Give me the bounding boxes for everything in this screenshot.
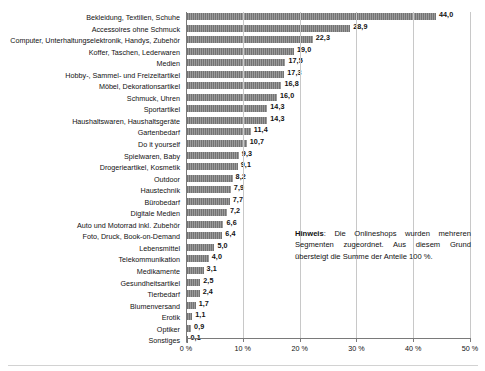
bar — [186, 221, 223, 228]
bar-row: 16,8 — [186, 81, 470, 93]
bar-value-label: 14,3 — [270, 114, 284, 123]
bar-value-label: 14,3 — [270, 102, 284, 111]
bar — [186, 186, 231, 193]
bar-row: 11,4 — [186, 127, 470, 139]
bar — [186, 128, 251, 135]
bottom-divider — [8, 365, 478, 366]
x-tick-50 — [470, 338, 471, 342]
category-label: Computer, Unterhaltungselektronik, Handy… — [0, 35, 183, 47]
bar — [186, 244, 214, 251]
bar-row: 3,1 — [186, 266, 470, 278]
bar — [186, 140, 247, 147]
category-label: Haustechnik — [0, 185, 183, 197]
category-label: Digitale Medien — [0, 208, 183, 220]
bar — [186, 279, 200, 286]
bar — [186, 36, 313, 43]
x-tick-label-10: 10 % — [235, 344, 251, 353]
category-label: Lebensmittel — [0, 243, 183, 255]
bar-value-label: 2,4 — [203, 287, 213, 296]
x-tick-30 — [356, 338, 357, 342]
bar-row: 14,3 — [186, 116, 470, 128]
category-label: Accessoires ohne Schmuck — [0, 24, 183, 36]
x-tick-10 — [243, 338, 244, 342]
bar-value-label: 44,0 — [439, 10, 453, 19]
gridline-0 — [186, 12, 187, 338]
gridline-40 — [413, 12, 414, 338]
bar-row: 14,3 — [186, 104, 470, 116]
bar — [186, 302, 196, 309]
bar-value-label: 6,4 — [225, 229, 235, 238]
bar-row: 2,4 — [186, 289, 470, 301]
category-label: Erotik — [0, 312, 183, 324]
bar-value-label: 5,0 — [217, 241, 227, 250]
bar — [186, 117, 267, 124]
category-label: Foto, Druck, Book-on-Demand — [0, 231, 183, 243]
category-label: Medikamente — [0, 266, 183, 278]
bar-value-label: 11,4 — [254, 125, 268, 134]
x-tick-20 — [300, 338, 301, 342]
bar-row: 0,9 — [186, 324, 470, 336]
plot-area: 44,028,922,319,017,517,316,816,014,314,3… — [186, 12, 470, 338]
category-label: Haushaltswaren, Haushaltsgeräte — [0, 116, 183, 128]
bar — [186, 48, 294, 55]
category-label: Bürobedarf — [0, 197, 183, 209]
gridline-50 — [470, 12, 471, 338]
x-tick-label-40: 40 % — [405, 344, 421, 353]
bar — [186, 152, 239, 159]
bar-value-label: 6,6 — [226, 218, 236, 227]
hinweis-note-separator: : — [324, 229, 326, 238]
category-label: Möbel, Dekorationsartikel — [0, 81, 183, 93]
bar — [186, 175, 233, 182]
bar-value-label: 2,5 — [203, 276, 213, 285]
bar-value-label: 0,9 — [194, 322, 204, 331]
bar-value-label: 7,2 — [230, 206, 240, 215]
category-label: Hobby-, Sammel- und Freizeitartikel — [0, 70, 183, 82]
bar-row: 8,2 — [186, 174, 470, 186]
bar-row: 9,1 — [186, 162, 470, 174]
category-label: Outdoor — [0, 174, 183, 186]
bar-value-label: 17,5 — [288, 56, 302, 65]
bar — [186, 25, 350, 32]
bar-value-label: 1,1 — [195, 310, 205, 319]
bar — [186, 198, 230, 205]
category-label: Bekleidung, Textilien, Schuhe — [0, 12, 183, 24]
hinweis-note: Hinweis: Die Onlineshops wurden mehreren… — [295, 228, 471, 262]
category-label: Sonstiges — [0, 335, 183, 347]
bar-row: 16,0 — [186, 93, 470, 105]
bar — [186, 59, 285, 66]
bar-value-label: 16,0 — [280, 91, 294, 100]
bar-row: 19,0 — [186, 47, 470, 59]
category-label: Sportartikel — [0, 104, 183, 116]
category-label: Drogerieartikel, Kosmetik — [0, 162, 183, 174]
bar-row: 17,5 — [186, 58, 470, 70]
bar — [186, 105, 267, 112]
x-axis-line — [186, 338, 470, 339]
bar-value-label: 10,7 — [250, 137, 264, 146]
category-label: Gesundheitsartikel — [0, 278, 183, 290]
bar — [186, 255, 209, 262]
bar — [186, 13, 436, 20]
category-axis-labels: Bekleidung, Textilien, SchuheAccessoires… — [0, 12, 183, 338]
bar-row: 1,1 — [186, 312, 470, 324]
category-label: Medien — [0, 58, 183, 70]
category-label: Blumenversand — [0, 301, 183, 313]
bar-value-label: 22,3 — [316, 33, 330, 42]
bar — [186, 71, 284, 78]
x-tick-label-0: 0 % — [180, 344, 192, 353]
bar-row: 1,7 — [186, 301, 470, 313]
bar-row: 10,7 — [186, 139, 470, 151]
bar — [186, 82, 281, 89]
bar-rows: 44,028,922,319,017,517,316,816,014,314,3… — [186, 12, 470, 347]
category-label: Spielwaren, Baby — [0, 151, 183, 163]
hinweis-note-label: Hinweis — [295, 229, 324, 238]
bar-row: 9,3 — [186, 151, 470, 163]
bar-row: 44,0 — [186, 12, 470, 24]
gridline-10 — [243, 12, 244, 338]
category-label: Telekommunikation — [0, 254, 183, 266]
category-label: Auto und Motorrad inkl. Zubehör — [0, 220, 183, 232]
bar-value-label: 8,2 — [236, 172, 246, 181]
bar-value-label: 28,9 — [353, 22, 367, 31]
bar-row: 17,3 — [186, 70, 470, 82]
bar-value-label: 3,1 — [207, 264, 217, 273]
gridline-30 — [356, 12, 357, 338]
